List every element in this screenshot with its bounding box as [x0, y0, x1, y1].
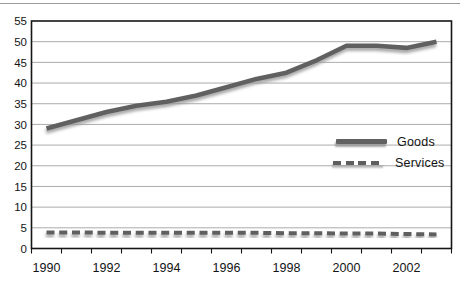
y-axis-label: 25: [14, 139, 27, 151]
x-axis-label: 1994: [153, 261, 181, 275]
legend-label-services: Services: [395, 156, 445, 170]
y-axis-label: 5: [21, 222, 27, 234]
legend: Goods Services: [333, 131, 453, 173]
services-line-swatch-icon: [333, 161, 384, 165]
legend-label-goods: Goods: [397, 135, 435, 149]
y-axis-label: 35: [14, 98, 27, 110]
y-axis-label: 50: [14, 36, 27, 48]
x-axis-label: 1996: [213, 261, 241, 275]
goods-line: [47, 42, 437, 129]
y-axis-label: 15: [14, 181, 27, 193]
y-axis-label: 55: [14, 15, 27, 27]
x-axis-label: 2002: [393, 261, 421, 275]
x-axis-label: 1992: [93, 261, 121, 275]
y-axis-label: 20: [14, 160, 27, 172]
services-line: [47, 232, 437, 234]
x-axis-label: 1998: [273, 261, 301, 275]
figure: 0510152025303540455055199019921994199619…: [0, 0, 460, 284]
y-axis-label: 40: [14, 77, 27, 89]
y-axis-label: 0: [21, 243, 27, 255]
y-axis-label: 45: [14, 57, 27, 69]
goods-line-swatch-icon: [336, 139, 387, 144]
x-axis-label: 2000: [333, 261, 361, 275]
legend-item-goods: Goods: [333, 131, 453, 152]
y-axis-label: 10: [14, 201, 27, 213]
y-axis-label: 30: [14, 119, 27, 131]
legend-item-services: Services: [333, 152, 453, 173]
x-axis-label: 1990: [33, 261, 61, 275]
